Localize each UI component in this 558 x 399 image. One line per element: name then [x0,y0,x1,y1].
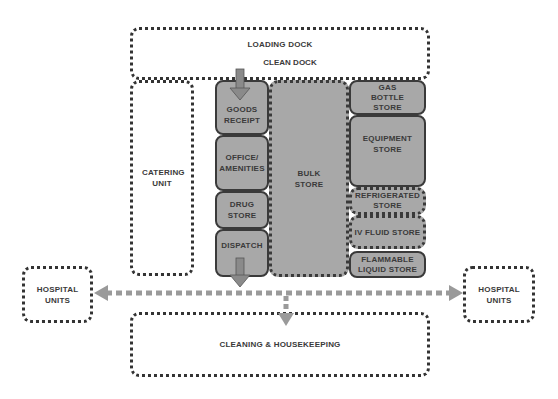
dispatch-label: DISPATCH [221,240,262,251]
hospital-units-right-label: HOSPITAL UNITS [474,284,524,306]
iv-fluid-store-zone: IV FLUID STORE [349,215,426,249]
gas-bottle-store-zone: GAS BOTTLE STORE [349,80,426,115]
loading-dock-label: LOADING DOCK [247,39,312,50]
catering-unit-label: CATERING UNIT [142,167,182,189]
office-amenities-label: OFFICE/ AMENITIES [217,152,267,174]
iv-fluid-store-label: IV FLUID STORE [355,227,421,238]
hospital-units-right-zone: HOSPITAL UNITS [463,266,535,323]
goods-receipt-label: GOODS RECEIPT [222,104,262,126]
arrow-left-icon [94,285,108,301]
drug-store-zone: DRUG STORE [215,191,269,229]
refrigerated-store-label: REFRIGERATED STORE [352,191,423,211]
goods-receipt-zone: GOODS RECEIPT [215,80,269,135]
drug-store-label: DRUG STORE [222,199,262,221]
equipment-store-label: EQUIPMENT STORE [358,133,418,155]
clean-dock-label: CLEAN DOCK [240,58,340,67]
cleaning-housekeeping-zone: CLEANING & HOUSEKEEPING [130,312,430,377]
flammable-liquid-store-zone: FLAMMABLE LIQUID STORE [349,251,426,278]
hospital-units-left-zone: HOSPITAL UNITS [22,266,93,323]
arrow-right-icon [449,285,463,301]
flammable-liquid-store-label: FLAMMABLE LIQUID STORE [356,255,420,275]
loading-dock-zone: LOADING DOCK [130,27,430,80]
cleaning-housekeeping-label: CLEANING & HOUSEKEEPING [219,339,340,350]
dispatch-zone: DISPATCH [215,229,269,277]
refrigerated-store-zone: REFRIGERATED STORE [349,187,426,215]
hospital-units-left-label: HOSPITAL UNITS [33,284,83,306]
catering-unit-zone: CATERING UNIT [130,80,194,276]
equipment-store-zone: EQUIPMENT STORE [349,115,426,187]
office-amenities-zone: OFFICE/ AMENITIES [215,135,269,191]
bulk-store-label: BULK STORE [289,168,329,190]
gas-bottle-store-label: GAS BOTTLE STORE [368,83,408,113]
bulk-store-zone: BULK STORE [269,80,349,277]
